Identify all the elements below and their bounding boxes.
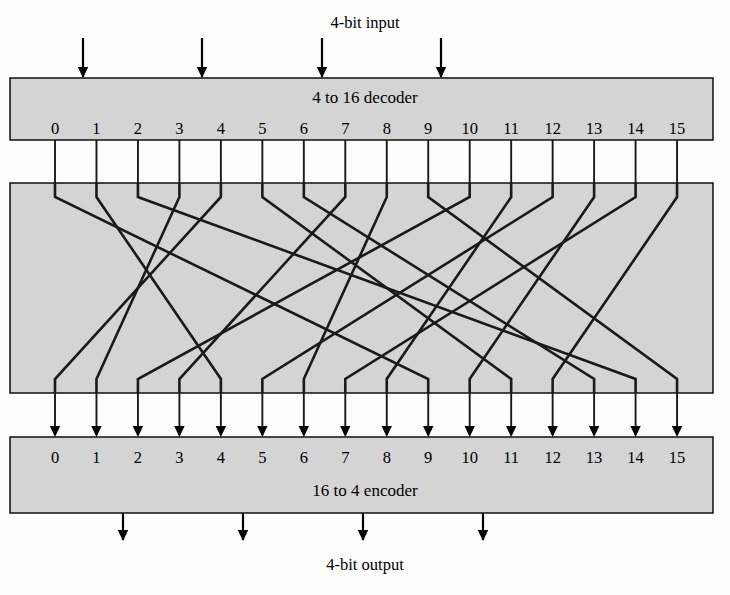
encoder-pin-label-1: 1 bbox=[92, 448, 100, 467]
encoder-pin-label-15: 15 bbox=[669, 448, 686, 467]
encoder-pin-label-7: 7 bbox=[341, 448, 349, 467]
decoder-label: 4 to 16 decoder bbox=[312, 88, 418, 107]
encoder-label: 16 to 4 encoder bbox=[312, 481, 418, 500]
encoder-pin-label-11: 11 bbox=[503, 448, 519, 467]
encoder-input-arrowhead-11 bbox=[506, 426, 516, 437]
encoder-input-arrowhead-2 bbox=[133, 426, 143, 437]
decoder-pin-label-0: 0 bbox=[51, 119, 59, 138]
decoder-pin-label-5: 5 bbox=[258, 119, 266, 138]
encoder-pin-label-4: 4 bbox=[217, 448, 225, 467]
decoder-output-stub-group bbox=[55, 140, 677, 183]
output-arrowhead-2 bbox=[358, 530, 368, 541]
decoder-pin-label-11: 11 bbox=[503, 119, 519, 138]
decoder-pin-label-9: 9 bbox=[424, 119, 432, 138]
encoder-pin-label-2: 2 bbox=[134, 448, 142, 467]
encoder-pin-label-6: 6 bbox=[300, 448, 308, 467]
decoder-pin-label-10: 10 bbox=[461, 119, 478, 138]
encoder-input-arrowhead-9 bbox=[423, 426, 433, 437]
input-arrowhead-1 bbox=[197, 67, 207, 78]
decoder-pin-label-6: 6 bbox=[300, 119, 308, 138]
encoder-input-arrowhead-8 bbox=[382, 426, 392, 437]
input-arrowhead-0 bbox=[78, 67, 88, 78]
encoder-input-arrowhead-4 bbox=[216, 426, 226, 437]
encoder-input-arrowhead-12 bbox=[547, 426, 557, 437]
encoder-input-arrowhead-1 bbox=[91, 426, 101, 437]
encoder-input-arrowhead-10 bbox=[465, 426, 475, 437]
output-arrowhead-3 bbox=[478, 530, 488, 541]
input-arrowhead-2 bbox=[317, 67, 327, 78]
encoder-pin-label-13: 13 bbox=[586, 448, 603, 467]
input-arrow-group bbox=[78, 38, 446, 78]
input-label: 4-bit input bbox=[330, 13, 400, 32]
output-arrow-group bbox=[118, 513, 488, 541]
decoder-pin-label-12: 12 bbox=[544, 119, 561, 138]
decoder-pin-label-3: 3 bbox=[175, 119, 183, 138]
encoder-input-arrowhead-0 bbox=[50, 426, 60, 437]
encoder-input-arrowhead-6 bbox=[299, 426, 309, 437]
output-arrowhead-0 bbox=[118, 530, 128, 541]
permutation-network-diagram: 4-bit input 4 to 16 decoder 012345678910… bbox=[0, 0, 730, 595]
encoder-input-arrowhead-7 bbox=[340, 426, 350, 437]
encoder-pin-label-9: 9 bbox=[424, 448, 432, 467]
encoder-box[interactable] bbox=[10, 437, 713, 513]
encoder-pin-label-0: 0 bbox=[51, 448, 59, 467]
encoder-input-arrowhead-15 bbox=[672, 426, 682, 437]
diagram-canvas: 4-bit input 4 to 16 decoder 012345678910… bbox=[0, 0, 730, 595]
decoder-pin-label-7: 7 bbox=[341, 119, 349, 138]
decoder-pin-label-15: 15 bbox=[669, 119, 686, 138]
encoder-input-arrowhead-14 bbox=[630, 426, 640, 437]
encoder-input-arrowhead-3 bbox=[174, 426, 184, 437]
encoder-pin-label-10: 10 bbox=[461, 448, 478, 467]
decoder-pin-label-2: 2 bbox=[134, 119, 142, 138]
decoder-pin-label-8: 8 bbox=[383, 119, 391, 138]
encoder-pin-label-14: 14 bbox=[627, 448, 644, 467]
input-arrowhead-3 bbox=[436, 67, 446, 78]
encoder-input-arrowhead-5 bbox=[257, 426, 267, 437]
encoder-input-stub-group bbox=[50, 393, 682, 437]
encoder-pin-label-8: 8 bbox=[383, 448, 391, 467]
encoder-pin-label-5: 5 bbox=[258, 448, 266, 467]
encoder-pin-label-3: 3 bbox=[175, 448, 183, 467]
encoder-input-arrowhead-13 bbox=[589, 426, 599, 437]
output-arrowhead-1 bbox=[238, 530, 248, 541]
decoder-pin-label-14: 14 bbox=[627, 119, 644, 138]
decoder-pin-label-4: 4 bbox=[217, 119, 225, 138]
decoder-pin-label-1: 1 bbox=[92, 119, 100, 138]
decoder-pin-label-13: 13 bbox=[586, 119, 603, 138]
output-label: 4-bit output bbox=[326, 555, 404, 574]
encoder-pin-label-12: 12 bbox=[544, 448, 561, 467]
